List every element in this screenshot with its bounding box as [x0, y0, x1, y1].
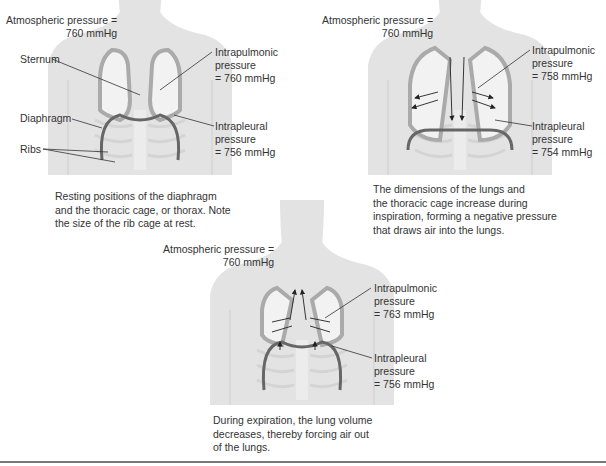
atmospheric-label-line1: Atmospheric pressure =	[322, 14, 433, 27]
intrapleural-pressure-inspiration: Intrapleural pressure = 754 mmHg	[532, 120, 592, 159]
label-line: Intrapulmonic	[215, 46, 278, 59]
label-line: Intrapleural	[532, 120, 592, 133]
label-line: pressure	[215, 59, 278, 72]
diaphragm-label: Diaphragm	[20, 112, 71, 125]
caption-line: The dimensions of the lungs and	[373, 183, 557, 197]
intrapulmonic-pressure-inspiration: Intrapulmonic pressure = 758 mmHg	[532, 44, 595, 83]
atmospheric-label-line2: 760 mmHg	[163, 256, 274, 269]
caption-expiration: During expiration, the lung volume decre…	[213, 414, 372, 455]
label-line: Intrapulmonic	[374, 282, 437, 295]
atmospheric-label-line1: Atmospheric pressure =	[163, 243, 274, 256]
label-value: = 754 mmHg	[532, 146, 592, 159]
label-value: = 756 mmHg	[374, 378, 434, 391]
ribs-label: Ribs	[20, 143, 41, 156]
caption-line: that draws air into the lungs.	[373, 224, 557, 238]
intrapulmonic-pressure-rest: Intrapulmonic pressure = 760 mmHg	[215, 46, 278, 85]
label-value: = 756 mmHg	[215, 146, 275, 159]
caption-line: the thoracic cage increase during	[373, 197, 557, 211]
sternum-label: Sternum	[20, 53, 60, 66]
label-value: = 763 mmHg	[374, 308, 437, 321]
atmospheric-pressure-label-expiration: Atmospheric pressure = 760 mmHg	[163, 243, 274, 269]
label-line: pressure	[532, 57, 595, 70]
atmospheric-label-line2: 760 mmHg	[322, 27, 433, 40]
caption-line: of the lungs.	[213, 441, 372, 455]
intrapleural-pressure-expiration: Intrapleural pressure = 756 mmHg	[374, 352, 434, 391]
atmospheric-label-line2: 760 mmHg	[6, 27, 117, 40]
label-line: Intrapleural	[215, 120, 275, 133]
label-value: = 758 mmHg	[532, 70, 595, 83]
figure-expiration	[210, 200, 394, 405]
caption-inspiration: The dimensions of the lungs and the thor…	[373, 183, 557, 237]
caption-line: Resting positions of the diaphragm	[55, 190, 231, 204]
label-value: = 760 mmHg	[215, 72, 278, 85]
label-line: pressure	[374, 365, 434, 378]
atmospheric-pressure-label-inspiration: Atmospheric pressure = 760 mmHg	[322, 14, 433, 40]
atmospheric-label-line1: Atmospheric pressure =	[6, 14, 117, 27]
label-line: pressure	[374, 295, 437, 308]
label-line: pressure	[532, 133, 592, 146]
label-line: pressure	[215, 133, 275, 146]
caption-rest: Resting positions of the diaphragm and t…	[55, 190, 231, 231]
caption-line: the size of the rib cage at rest.	[55, 217, 231, 231]
caption-line: During expiration, the lung volume	[213, 414, 372, 428]
label-line: Intrapulmonic	[532, 44, 595, 57]
intrapleural-pressure-rest: Intrapleural pressure = 756 mmHg	[215, 120, 275, 159]
caption-line: decreases, thereby forcing air out	[213, 428, 372, 442]
atmospheric-pressure-label-rest: Atmospheric pressure = 760 mmHg	[6, 14, 117, 40]
label-line: Intrapleural	[374, 352, 434, 365]
intrapulmonic-pressure-expiration: Intrapulmonic pressure = 763 mmHg	[374, 282, 437, 321]
caption-line: and the thoracic cage, or thorax. Note	[55, 204, 231, 218]
caption-line: inspiration, forming a negative pressure	[373, 210, 557, 224]
